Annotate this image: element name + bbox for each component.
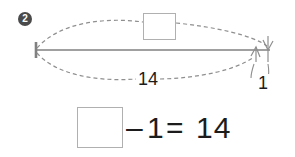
top-answer-box[interactable]: [143, 13, 176, 40]
lower-arc-label-14: 14: [136, 70, 160, 88]
equation-equals-sign: =: [166, 113, 185, 143]
equation-operand: 1: [147, 113, 165, 143]
equation-result: 14: [196, 113, 231, 143]
equation-answer-box[interactable]: [77, 107, 123, 148]
unit-jump-label-1: 1: [256, 74, 270, 92]
lower-arc-right-segment: [160, 57, 254, 79]
upper-arc-right-segment: [176, 23, 267, 46]
unit-jump-left-stroke: [251, 64, 254, 78]
lower-arc-left-segment: [37, 53, 136, 80]
equation-minus-sign: –: [126, 113, 144, 143]
worksheet-problem: 2 14 1 – 1 = 14: [0, 0, 295, 157]
upper-arc-left-segment: [37, 20, 143, 48]
